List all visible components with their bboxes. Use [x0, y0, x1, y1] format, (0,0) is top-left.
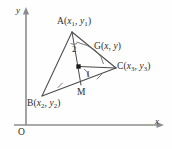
centroid-g-letter: G [94, 41, 101, 51]
vertex-c-label: C(x3, y3) [117, 62, 151, 72]
midpoint-m-label: M [77, 88, 86, 98]
x-axis-label: x [155, 117, 159, 126]
centroid-g-label: G(x, y) [94, 42, 121, 52]
vertex-a-letter: A [57, 16, 64, 26]
centroid-g-dot [76, 64, 80, 68]
median-am [72, 32, 81, 85]
vertex-a-paren-close: ) [88, 16, 91, 26]
angle-2-label: 2 [72, 45, 76, 54]
vertex-b-label: B(x2, y2) [27, 99, 61, 109]
segment-gc [79, 67, 117, 69]
y-axis-label: y [16, 6, 20, 15]
vertex-b-paren-close: ) [57, 98, 60, 108]
centroid-g-paren-close: ) [118, 41, 121, 51]
vertex-a-label: A(x1, y1) [57, 17, 91, 27]
tick-bm [58, 83, 63, 88]
geometry-figure: y x O A(x1, y1) G(x, y) C(x3, y3) B(x2, … [0, 0, 172, 149]
vertex-c-paren-close: ) [147, 61, 150, 71]
angle-1-label: 1 [86, 70, 90, 79]
y-axis-arrow-icon [23, 7, 29, 15]
x-axis [14, 122, 164, 128]
origin-label: O [18, 128, 25, 138]
